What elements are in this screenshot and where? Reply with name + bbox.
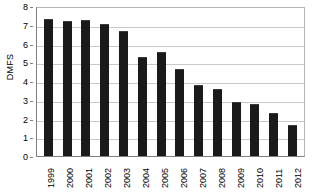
y-tick-label: 8 <box>23 3 28 12</box>
y-tick-label: 0 <box>23 153 28 162</box>
bar-slot <box>133 8 152 156</box>
x-tick-label: 2003 <box>123 168 132 188</box>
x-tick-slot: 2002 <box>95 158 114 193</box>
y-tick-label: 3 <box>23 96 28 105</box>
bar-slot <box>189 8 208 156</box>
y-tick-mark <box>30 138 33 139</box>
x-tick-label: 2010 <box>256 168 265 188</box>
bar <box>232 102 241 156</box>
x-tick-label: 2000 <box>66 168 75 188</box>
bar <box>175 69 184 156</box>
x-tick-slot: 2006 <box>171 158 190 193</box>
bar-slot <box>227 8 246 156</box>
bar-slot <box>264 8 283 156</box>
bar <box>213 89 222 156</box>
bar <box>157 52 166 156</box>
bar-slot <box>95 8 114 156</box>
y-tick-mark <box>30 101 33 102</box>
x-tick-label: 2002 <box>104 168 113 188</box>
bar <box>63 21 72 156</box>
y-tick-label: 4 <box>23 78 28 87</box>
bar-slot <box>39 8 58 156</box>
x-tick-slot: 2001 <box>76 158 95 193</box>
y-tick-mark <box>30 7 33 8</box>
plot-area <box>36 7 305 157</box>
x-tick-slot: 2004 <box>133 158 152 193</box>
x-tick-slot: 1999 <box>38 158 57 193</box>
bar <box>100 24 109 156</box>
bar <box>269 113 278 156</box>
bar <box>81 20 90 156</box>
x-axis-ticks: 1999200020012002200320042005200620072008… <box>36 158 305 193</box>
x-tick-slot: 2008 <box>208 158 227 193</box>
x-tick-label: 2012 <box>294 168 303 188</box>
bar-chart: DMFS 876543210 1999200020012002200320042… <box>0 0 314 193</box>
y-tick-mark <box>30 157 33 158</box>
y-tick-label: 1 <box>23 134 28 143</box>
x-tick-label: 2009 <box>237 168 246 188</box>
bar-slot <box>114 8 133 156</box>
bar-series <box>37 8 304 156</box>
x-tick-label: 2005 <box>161 168 170 188</box>
x-tick-slot: 2007 <box>189 158 208 193</box>
bar <box>288 125 297 156</box>
bar-slot <box>170 8 189 156</box>
x-tick-label: 1999 <box>47 168 56 188</box>
x-tick-label: 2004 <box>142 168 151 188</box>
x-tick-slot: 2000 <box>57 158 76 193</box>
y-tick-label: 5 <box>23 59 28 68</box>
bar <box>119 31 128 156</box>
bar-slot <box>246 8 265 156</box>
y-tick-label: 7 <box>23 21 28 30</box>
x-tick-label: 2007 <box>199 168 208 188</box>
x-tick-label: 2006 <box>180 168 189 188</box>
bar-slot <box>58 8 77 156</box>
bar-slot <box>152 8 171 156</box>
x-tick-slot: 2009 <box>227 158 246 193</box>
bar-slot <box>208 8 227 156</box>
y-tick-label: 2 <box>23 115 28 124</box>
y-tick-mark <box>30 120 33 121</box>
x-tick-slot: 2011 <box>265 158 284 193</box>
x-tick-label: 2011 <box>275 169 284 188</box>
x-tick-slot: 2005 <box>152 158 171 193</box>
y-tick-mark <box>30 45 33 46</box>
y-tick-mark <box>30 26 33 27</box>
y-tick-mark <box>30 82 33 83</box>
x-tick-label: 2008 <box>218 168 227 188</box>
bar <box>138 57 147 156</box>
x-tick-slot: 2012 <box>284 158 303 193</box>
x-tick-slot: 2010 <box>246 158 265 193</box>
y-axis-ticks: 876543210 <box>0 7 33 157</box>
x-tick-label: 2001 <box>85 168 94 188</box>
bar-slot <box>77 8 96 156</box>
bar-slot <box>283 8 302 156</box>
bar <box>250 104 259 157</box>
y-tick-mark <box>30 63 33 64</box>
x-tick-slot: 2003 <box>114 158 133 193</box>
bar <box>44 19 53 156</box>
y-tick-label: 6 <box>23 40 28 49</box>
bar <box>194 85 203 156</box>
